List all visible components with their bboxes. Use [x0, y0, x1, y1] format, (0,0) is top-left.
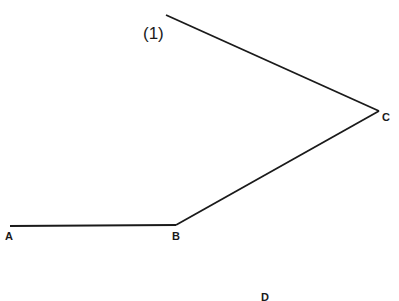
segment-top-to-c: [166, 15, 379, 111]
diagram-canvas: [0, 0, 399, 301]
label-1: (1): [143, 25, 164, 42]
segment-c-to-b: [176, 111, 379, 225]
point-label-b: B: [172, 231, 180, 242]
segment-b-to-a: [10, 225, 176, 226]
point-label-c: C: [382, 112, 390, 123]
point-label-a: A: [5, 231, 13, 242]
point-label-d: D: [261, 292, 269, 301]
